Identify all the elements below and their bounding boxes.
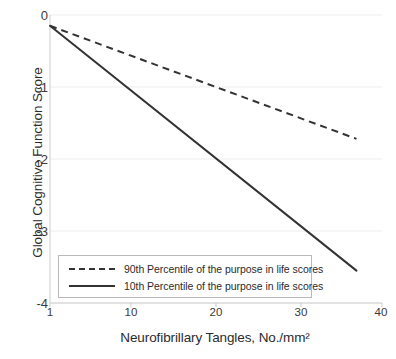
legend-label-90th: 90th Percentile of the purpose in life s… (124, 263, 323, 275)
legend-item-10th: 10th Percentile of the purpose in life s… (59, 277, 311, 294)
x-tick-label: 10 (125, 306, 138, 318)
x-tick-label: 40 (375, 306, 388, 318)
x-tick-label: 20 (210, 306, 223, 318)
legend-item-90th: 90th Percentile of the purpose in life s… (59, 260, 311, 277)
chart-legend: 90th Percentile of the purpose in life s… (58, 255, 312, 298)
x-axis-tick-labels: 1 10 20 30 40 (0, 306, 396, 324)
chart-figure: Global Cognitive Function Score 0 -1 -2 … (0, 0, 396, 359)
series-line-90th-percentile (50, 26, 356, 139)
x-axis-title: Neurofibrillary Tangles, No./mm² (40, 330, 390, 345)
x-tick-label: 1 (47, 306, 53, 318)
legend-swatch-dashed-line-icon (68, 263, 116, 275)
legend-swatch-solid-line-icon (68, 280, 116, 292)
legend-label-10th: 10th Percentile of the purpose in life s… (124, 280, 323, 292)
series-line-10th-percentile (50, 26, 356, 271)
x-tick-label: 30 (295, 306, 308, 318)
